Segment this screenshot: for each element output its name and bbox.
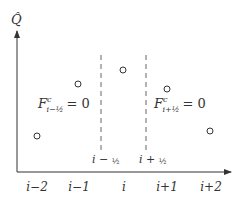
interface-label-right: i + ½ (139, 153, 167, 166)
data-point-i-minus-1 (75, 81, 81, 87)
x-tick-label-i-plus-2: i+2 (200, 180, 222, 194)
data-point-i-plus-2 (207, 128, 213, 134)
x-tick-label-i-minus-1: i−1 (68, 180, 90, 194)
data-point-i-minus-2 (34, 133, 40, 139)
x-tick-label-i-plus-1: i+1 (156, 180, 178, 194)
flux-label-right: Fci+½= 0 (153, 95, 206, 114)
x-tick-label-i: i (122, 180, 126, 194)
y-axis-label: Q̂ (11, 12, 22, 27)
x-tick-label-i-minus-2: i−2 (26, 180, 48, 194)
flux-label-left: Fci−½= 0 (37, 95, 90, 114)
data-point-i (120, 67, 126, 73)
interface-label-left: i − ½ (92, 153, 120, 166)
flux-diagram: Q̂ i−2 i−1 i i+1 i+2 i − ½ i + ½ Fci−½= … (0, 0, 242, 205)
data-point-i-plus-1 (164, 86, 170, 92)
